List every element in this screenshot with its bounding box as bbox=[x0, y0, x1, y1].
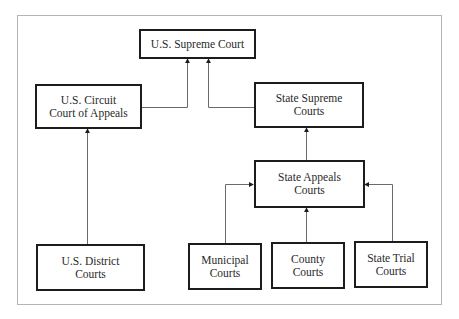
node-label: Municipal Courts bbox=[201, 254, 248, 280]
node-label: State Supreme Courts bbox=[276, 92, 343, 118]
node-label: County Courts bbox=[291, 253, 325, 279]
node-label: State Appeals Courts bbox=[278, 171, 341, 197]
node-municipal-courts: Municipal Courts bbox=[188, 243, 262, 290]
node-label: U.S. Supreme Court bbox=[151, 38, 244, 51]
node-county-courts: County Courts bbox=[271, 242, 345, 289]
node-label: U.S. District Courts bbox=[62, 255, 120, 281]
node-label: State Trial Courts bbox=[367, 252, 415, 278]
node-us-supreme-court: U.S. Supreme Court bbox=[139, 29, 256, 59]
node-us-circuit-court-of-appeals: U.S. Circuit Court of Appeals bbox=[35, 84, 142, 129]
node-state-appeals-courts: State Appeals Courts bbox=[254, 160, 365, 208]
node-us-district-courts: U.S. District Courts bbox=[36, 244, 145, 291]
node-state-trial-courts: State Trial Courts bbox=[354, 241, 428, 288]
node-label: U.S. Circuit Court of Appeals bbox=[49, 94, 128, 120]
node-state-supreme-courts: State Supreme Courts bbox=[254, 82, 364, 128]
